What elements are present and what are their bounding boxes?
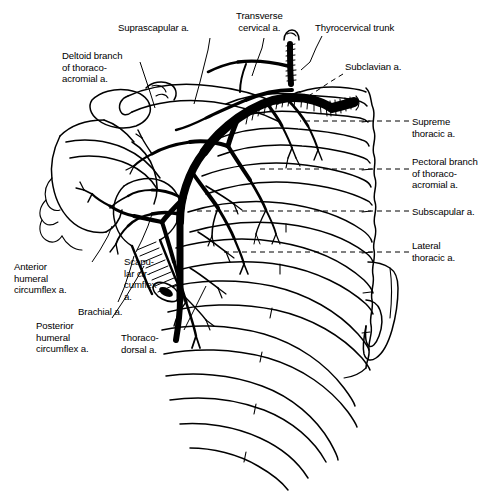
label-subscapular: Subscapular a. xyxy=(412,206,475,218)
label-deltoid-branch: Deltoid branch of thoraco- acromial a. xyxy=(62,50,122,85)
label-brachial: Brachial a. xyxy=(78,306,122,318)
label-scapular-circumflex: Scapu- lar cir- cumflex a. xyxy=(124,256,156,302)
label-lateral-thoracic: Lateral thoracic a. xyxy=(412,240,455,263)
anatomy-figure: .ol{fill:none;stroke:#000;stroke-width:1… xyxy=(0,0,491,501)
label-suprascapular: Suprascapular a. xyxy=(118,22,189,34)
label-supreme-thoracic: Supreme thoracic a. xyxy=(412,116,455,139)
label-anterior-humeral-circumflex: Anterior humeral circumflex a. xyxy=(14,261,67,296)
label-thyrocervical-trunk: Thyrocervical trunk xyxy=(315,22,394,34)
label-subclavian: Subclavian a. xyxy=(345,61,401,73)
label-transverse-cervical: Transverse cervical a. xyxy=(236,10,283,33)
label-pectoral-branch: Pectoral branch of thoraco- acromial a. xyxy=(412,156,478,191)
label-posterior-humeral-circumflex: Posterior humeral circumflex a. xyxy=(36,320,89,355)
label-thoracodorsal: Thoraco- dorsal a. xyxy=(121,332,159,355)
